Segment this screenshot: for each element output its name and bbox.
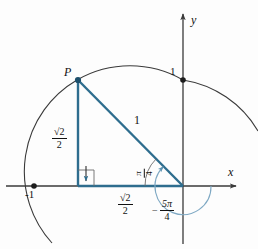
vertical-leg-numerator: √2 bbox=[52, 127, 67, 138]
acute-angle-label: π 4 bbox=[134, 169, 155, 178]
y-axis-label: y bbox=[191, 14, 196, 26]
trigonometry-figure: y x 1 -1 P 1 √2 2 √2 2 π 4 − 5π 4 bbox=[0, 0, 258, 249]
point-p-label: P bbox=[64, 66, 71, 78]
vertical-leg-length-label: √2 2 bbox=[52, 127, 67, 150]
horizontal-leg-denominator: 2 bbox=[118, 206, 133, 217]
acute-angle-denominator: 4 bbox=[145, 169, 154, 178]
point-p-dot bbox=[75, 77, 81, 83]
right-angle-marker bbox=[78, 166, 94, 186]
horizontal-leg-numerator: √2 bbox=[118, 193, 133, 204]
unit-circle-arc bbox=[24, 66, 258, 243]
rotation-angle-denominator: 4 bbox=[160, 212, 174, 223]
vertical-leg-denominator: 2 bbox=[52, 140, 67, 151]
rotation-angle-label: 5π 4 bbox=[160, 199, 174, 222]
y-tick-label-one: 1 bbox=[170, 66, 176, 77]
acute-angle-numerator: π bbox=[134, 169, 143, 178]
rotation-angle-sign: − bbox=[152, 205, 158, 216]
horizontal-leg-length-label: √2 2 bbox=[118, 193, 133, 216]
x-tick-label-negative-one: -1 bbox=[25, 189, 34, 200]
x-axis-label: x bbox=[228, 166, 233, 178]
rotation-angle-numerator: 5π bbox=[160, 199, 174, 210]
tick-dot-one bbox=[180, 77, 186, 83]
hypotenuse-length-label: 1 bbox=[134, 114, 140, 126]
